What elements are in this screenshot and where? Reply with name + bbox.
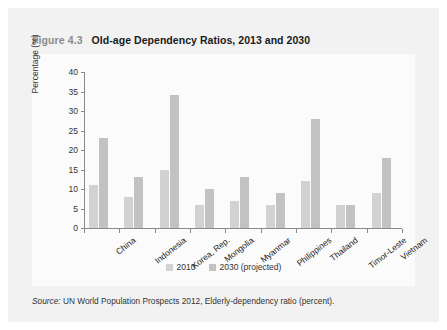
bar-2030 — [382, 158, 391, 228]
bar-2010 — [195, 205, 204, 228]
x-axis-tick-mark — [402, 229, 403, 233]
y-axis-tick-label: 5 — [56, 205, 78, 213]
x-axis-tick-mark — [331, 229, 332, 233]
figure-container: Figure 4.3Old-age Dependency Ratios, 201… — [8, 8, 439, 322]
y-axis-tick-label: 35 — [56, 88, 78, 96]
y-axis-tick-label: 10 — [56, 185, 78, 193]
bar-2030 — [276, 193, 285, 228]
bar-group — [331, 72, 366, 228]
chart-legend: 20102030 (projected) — [32, 260, 415, 274]
y-axis-tick-label: 0 — [56, 224, 78, 232]
bar-2030 — [240, 177, 249, 228]
y-axis-tick-label: 25 — [56, 127, 78, 135]
x-axis-line — [84, 228, 402, 229]
x-axis-tick-mark — [261, 229, 262, 233]
legend-swatch-icon — [209, 264, 216, 271]
bar-group — [190, 72, 225, 228]
legend-swatch-icon — [166, 264, 173, 271]
legend-label: 2030 (projected) — [220, 263, 282, 272]
x-axis-tick-mark — [225, 229, 226, 233]
source-note: Source: UN World Population Prospects 20… — [32, 296, 432, 310]
bar-2010 — [301, 181, 310, 228]
bar-group — [155, 72, 190, 228]
y-axis-title: Percentage (%) — [30, 14, 42, 114]
source-label: Source: — [32, 296, 61, 306]
bar-2030 — [346, 205, 355, 228]
x-axis-tick-mark — [367, 229, 368, 233]
chart-plot-area: Percentage (%) 0510152025303540 ChinaInd… — [32, 54, 415, 286]
bar-group — [367, 72, 402, 228]
bar-group — [225, 72, 260, 228]
source-text: UN World Population Prospects 2012, Elde… — [63, 296, 334, 306]
y-axis-tick-label: 40 — [56, 68, 78, 76]
bar-2010 — [266, 205, 275, 228]
bar-2010 — [160, 170, 169, 229]
figure-title-row: Figure 4.3Old-age Dependency Ratios, 201… — [32, 30, 432, 46]
bar-2010 — [372, 193, 381, 228]
x-axis-tick-mark — [190, 229, 191, 233]
x-axis-tick-mark — [155, 229, 156, 233]
bar-2030 — [311, 119, 320, 228]
bar-2030 — [170, 95, 179, 228]
bar-2030 — [205, 189, 214, 228]
y-axis-tick-label: 30 — [56, 107, 78, 115]
bar-group — [119, 72, 154, 228]
bar-group — [261, 72, 296, 228]
y-axis-tick-label: 20 — [56, 146, 78, 154]
page-title: Old-age Dependency Ratios, 2013 and 2030 — [92, 34, 311, 46]
bar-2010 — [89, 185, 98, 228]
bar-2010 — [230, 201, 239, 228]
bar-2010 — [124, 197, 133, 228]
bar-2030 — [99, 138, 108, 228]
x-axis-tick-mark — [296, 229, 297, 233]
x-axis-tick-mark — [84, 229, 85, 233]
legend-label: 2010 — [177, 263, 196, 272]
legend-item: 2010 — [166, 263, 196, 272]
bar-group — [84, 72, 119, 228]
legend-item: 2030 (projected) — [209, 263, 282, 272]
bar-group — [296, 72, 331, 228]
chart-bars — [84, 72, 402, 228]
x-axis-tick-mark — [119, 229, 120, 233]
y-axis-tick-label: 15 — [56, 166, 78, 174]
bar-2030 — [134, 177, 143, 228]
bar-2010 — [336, 205, 345, 228]
